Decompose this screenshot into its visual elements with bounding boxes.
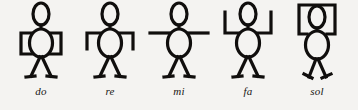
sign-mi: mi: [146, 0, 212, 110]
right-leg: [42, 57, 51, 76]
torso-shape: [306, 31, 329, 59]
torso-shape: [237, 29, 260, 57]
stick-figure-fa: [225, 3, 271, 77]
sign-re-label: re: [105, 85, 114, 97]
left-leg: [31, 57, 40, 76]
right-leg: [249, 57, 258, 76]
left-foot: [164, 76, 173, 77]
head-shape: [240, 3, 256, 25]
right-leg: [111, 57, 120, 76]
sign-re: re: [77, 0, 143, 110]
sign-re-art: [77, 0, 143, 84]
sign-sol: sol: [284, 0, 350, 110]
left-leg: [100, 57, 109, 76]
torso-shape: [168, 29, 191, 57]
head-shape: [33, 3, 49, 25]
stick-figure-do: [21, 3, 61, 77]
stick-figure-sol: [299, 5, 335, 78]
sign-mi-label: mi: [173, 85, 184, 97]
right-foot: [185, 76, 194, 77]
sign-fa: fa: [215, 0, 281, 110]
right-foot: [254, 76, 263, 77]
left-foot: [95, 76, 104, 77]
left-leg: [238, 57, 247, 76]
right-leg: [180, 57, 189, 76]
sign-sol-label: sol: [310, 85, 323, 97]
right-foot: [47, 76, 56, 77]
sign-do-art: [8, 0, 74, 84]
left-leg: [169, 57, 178, 76]
right-foot: [116, 76, 125, 77]
stick-figure-re: [87, 3, 133, 77]
head-shape: [102, 3, 118, 25]
right-arm-up-bend: [258, 12, 271, 33]
figure-row: do: [0, 0, 358, 110]
sign-sol-art: [284, 0, 350, 84]
sign-fa-label: fa: [244, 85, 253, 97]
sign-fa-art: [215, 0, 281, 84]
sign-do: do: [8, 0, 74, 110]
head-shape: [309, 6, 325, 28]
stick-figure-mi: [150, 3, 208, 77]
left-foot: [233, 76, 242, 77]
torso-shape: [99, 29, 122, 57]
left-foot: [26, 76, 35, 77]
left-arm-up-bend: [225, 12, 238, 33]
solfege-body-signs-figure: do: [0, 0, 358, 110]
head-shape: [171, 3, 187, 25]
sign-do-label: do: [35, 85, 46, 97]
right-leg: [318, 59, 326, 77]
left-leg: [309, 59, 316, 77]
sign-mi-art: [146, 0, 212, 84]
